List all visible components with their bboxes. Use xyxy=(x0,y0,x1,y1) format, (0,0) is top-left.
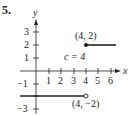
x-tick-label: 3 xyxy=(71,75,76,86)
x-tick-label: 4 xyxy=(83,75,88,86)
point-label-upper: (4, 2) xyxy=(75,30,97,42)
y-tick-label: 2 xyxy=(24,39,29,50)
y-tick-label: 3 xyxy=(24,26,29,37)
closed-dot-icon xyxy=(84,43,88,47)
x-tick-label: 2 xyxy=(58,75,63,86)
x-axis-arrow-icon xyxy=(115,69,121,73)
y-tick-label: −1 xyxy=(17,78,28,89)
x-tick-label: 6 xyxy=(108,75,113,86)
x-tick-label: 1 xyxy=(46,75,51,86)
x-axis-label: x xyxy=(122,65,128,76)
y-tick-label: 1 xyxy=(24,52,29,63)
piecewise-graph: x y 1 2 3 4 5 6 3 2 1 −1 −3 (4, 2) c = 4… xyxy=(0,0,129,115)
x-tick-label: 5 xyxy=(95,75,100,86)
y-axis-arrow-icon xyxy=(34,19,38,25)
c-label: c = 4 xyxy=(64,51,85,62)
y-axis-label: y xyxy=(32,7,38,18)
y-tick-label: −3 xyxy=(17,103,28,114)
point-label-lower: (4, −2) xyxy=(72,98,99,110)
